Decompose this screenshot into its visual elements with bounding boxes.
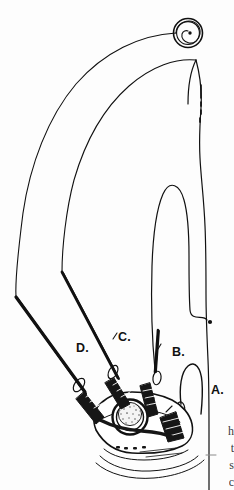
- figure-root: A. B. C. D. h t s c: [0, 0, 234, 490]
- callout-label-d: D.: [76, 342, 89, 355]
- dot-terminal-b: [208, 320, 212, 324]
- edge-text-fragment-4: c: [229, 476, 234, 488]
- line-art-illustration: [0, 0, 234, 490]
- edge-text-fragment-3: s: [229, 459, 234, 471]
- callout-label-c: C.: [118, 331, 131, 344]
- edge-text-fragment-2: t: [231, 442, 234, 454]
- spiral-center-dot: [188, 31, 191, 34]
- callout-label-b: B.: [172, 346, 185, 359]
- callout-label-a: A.: [211, 384, 224, 397]
- edge-text-fragment-1: h: [228, 425, 234, 437]
